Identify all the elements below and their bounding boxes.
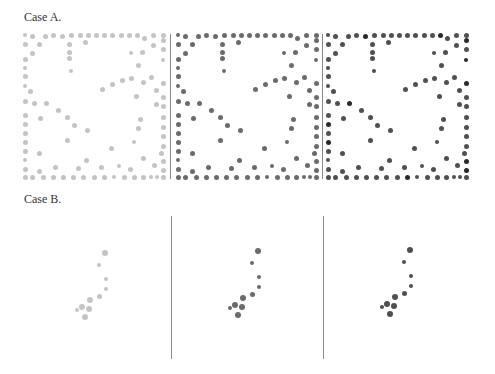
data-point: [176, 42, 181, 47]
data-point: [464, 134, 469, 139]
data-point: [76, 166, 81, 171]
data-point: [314, 134, 319, 139]
data-point: [141, 175, 146, 180]
data-point: [176, 74, 181, 79]
data-point: [128, 167, 133, 172]
data-point: [97, 294, 102, 299]
data-point: [452, 175, 456, 179]
data-point: [263, 82, 268, 87]
data-point: [454, 43, 459, 48]
data-point: [302, 75, 307, 80]
data-point: [183, 51, 188, 56]
data-point: [282, 76, 287, 81]
data-point: [257, 275, 261, 279]
data-point: [75, 308, 79, 312]
data-point: [432, 76, 437, 81]
data-point: [30, 175, 35, 180]
data-point: [78, 33, 83, 38]
data-point: [464, 38, 469, 43]
data-point: [314, 33, 319, 38]
data-point: [307, 102, 312, 107]
data-point: [110, 82, 115, 87]
data-point: [402, 291, 407, 296]
data-point: [272, 33, 277, 38]
divider-b-1: [171, 216, 172, 359]
data-point: [69, 33, 74, 38]
data-point: [255, 248, 261, 254]
data-point: [402, 165, 407, 170]
data-point: [314, 175, 319, 180]
data-point: [288, 33, 293, 38]
data-point: [141, 80, 146, 85]
data-point: [435, 140, 439, 144]
data-point: [389, 33, 394, 38]
data-point: [275, 175, 280, 180]
data-point: [83, 40, 88, 45]
data-point: [60, 34, 65, 39]
data-point: [253, 87, 258, 92]
data-point: [161, 58, 165, 62]
data-point: [190, 151, 195, 156]
data-point: [387, 158, 392, 163]
data-point: [403, 87, 408, 92]
data-point: [455, 163, 460, 168]
data-point: [161, 168, 166, 173]
data-point: [232, 302, 238, 308]
data-point: [464, 168, 469, 173]
data-point: [326, 33, 330, 37]
data-point: [190, 42, 195, 47]
data-point: [412, 146, 417, 151]
data-point: [190, 169, 195, 174]
data-point: [432, 51, 436, 55]
data-point: [262, 146, 267, 151]
data-point: [395, 175, 400, 180]
data-point: [314, 104, 319, 109]
data-point: [220, 56, 225, 61]
data-point: [255, 33, 260, 38]
data-point: [314, 47, 319, 52]
data-point: [206, 165, 211, 170]
data-point: [305, 163, 310, 168]
data-point: [176, 175, 181, 180]
data-point: [452, 75, 457, 80]
data-point: [239, 304, 245, 310]
data-point: [457, 102, 462, 107]
data-point: [84, 158, 89, 163]
data-point: [32, 101, 37, 106]
data-point: [386, 40, 391, 45]
data-point: [176, 57, 181, 62]
data-point: [132, 140, 136, 144]
data-point: [87, 297, 93, 303]
data-point: [326, 66, 330, 70]
data-point: [23, 113, 28, 118]
data-point: [23, 175, 28, 180]
data-point: [356, 165, 361, 170]
data-point: [181, 89, 186, 94]
data-point: [464, 115, 469, 120]
data-point: [326, 57, 331, 62]
data-point: [291, 117, 296, 122]
data-point: [250, 292, 255, 297]
data-point: [154, 88, 159, 93]
data-point: [364, 175, 369, 180]
data-point: [370, 42, 375, 47]
data-point: [67, 56, 72, 61]
data-point: [444, 156, 449, 161]
data-point: [176, 33, 180, 37]
data-point: [314, 115, 319, 120]
data-point: [247, 33, 252, 38]
data-point: [405, 33, 410, 38]
data-point: [161, 38, 166, 43]
data-point: [67, 42, 72, 47]
data-point: [196, 34, 201, 39]
data-point: [72, 123, 77, 128]
data-point: [100, 87, 105, 92]
data-point: [359, 108, 364, 113]
data-point: [375, 123, 380, 128]
data-point: [333, 175, 338, 180]
data-point: [374, 175, 379, 180]
data-point: [307, 88, 312, 93]
data-point: [439, 126, 444, 131]
data-point: [381, 33, 386, 38]
data-point: [176, 113, 181, 118]
